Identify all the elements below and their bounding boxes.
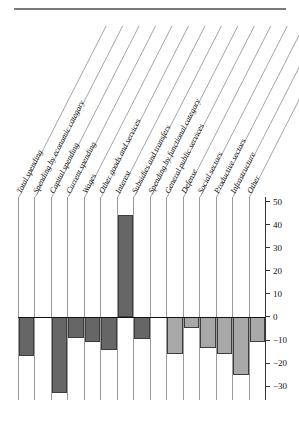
chart-figure: Total spendingSpending by economic categ… <box>0 0 299 423</box>
y-tick-mark <box>266 386 270 387</box>
column-separator <box>34 197 35 400</box>
slant-labels-group: Total spendingSpending by economic categ… <box>15 97 263 196</box>
plot-inner <box>18 197 265 400</box>
bar <box>184 317 199 329</box>
bar <box>233 317 248 375</box>
y-tick: 10 <box>266 288 282 300</box>
bar <box>200 317 215 348</box>
column-separator <box>133 197 134 400</box>
y-tick-label: 40 <box>273 220 282 230</box>
y-tick-mark <box>266 293 270 294</box>
bar <box>134 317 149 339</box>
y-tick: −10 <box>266 334 287 346</box>
column-separator <box>84 197 85 400</box>
y-axis: 50403020100−10−20−30 <box>265 197 299 400</box>
y-tick-label: 20 <box>273 266 282 276</box>
y-tick-mark <box>266 340 270 341</box>
y-tick-label: 10 <box>273 289 282 299</box>
y-tick: 20 <box>266 265 282 277</box>
y-tick: −30 <box>266 380 287 392</box>
column-separator <box>100 197 101 400</box>
bar <box>217 317 232 354</box>
slanted-labels-svg: Total spendingSpending by economic categ… <box>0 22 299 197</box>
column-separator <box>216 197 217 400</box>
plot-area <box>18 197 265 400</box>
y-tick: 50 <box>266 196 282 208</box>
bar <box>52 317 67 393</box>
bar <box>68 317 83 338</box>
y-tick: 40 <box>266 219 282 231</box>
category-label: Wages <box>81 172 98 195</box>
y-tick: 30 <box>266 242 282 254</box>
bar <box>85 317 100 342</box>
y-tick-label: 50 <box>273 197 282 207</box>
bar <box>167 317 182 354</box>
y-tick-mark <box>266 224 270 225</box>
y-tick-mark <box>266 270 270 271</box>
column-separator <box>150 197 151 400</box>
zero-reference-line <box>18 317 265 318</box>
y-tick: −20 <box>266 357 287 369</box>
column-separator <box>166 197 167 400</box>
y-tick-mark <box>266 247 270 248</box>
column-separator <box>18 197 19 400</box>
column-separator <box>199 197 200 400</box>
y-tick-label: −20 <box>273 358 287 368</box>
y-tick-mark <box>266 363 270 364</box>
y-tick-label: 30 <box>273 243 282 253</box>
column-separator <box>249 197 250 400</box>
column-separator <box>183 197 184 400</box>
y-tick-label: −30 <box>273 381 287 391</box>
y-tick: 0 <box>266 311 278 323</box>
y-tick-label: 0 <box>273 312 278 322</box>
bar <box>250 317 265 342</box>
category-label-band: Total spendingSpending by economic categ… <box>0 22 299 197</box>
y-tick-mark <box>266 316 270 317</box>
bar <box>118 215 133 317</box>
column-separator <box>67 197 68 400</box>
y-tick-mark <box>266 201 270 202</box>
y-tick-label: −10 <box>273 335 287 345</box>
bar <box>101 317 116 350</box>
top-horizontal-rule <box>14 8 286 10</box>
bar <box>19 317 34 356</box>
